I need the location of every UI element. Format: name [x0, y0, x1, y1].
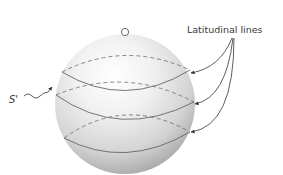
pole-marker-icon: [121, 28, 128, 35]
squiggle-arrow: [24, 87, 52, 98]
latitudinal-lines-label: Latitudinal lines: [187, 24, 263, 35]
surface-label: S': [9, 94, 18, 105]
sphere-latitude-diagram: Latitudinal lines S': [0, 0, 283, 175]
pointer-arrows: [191, 38, 234, 132]
sphere: [55, 34, 195, 174]
arrow-to-line-1: [191, 38, 232, 73]
arrow-to-line-3: [191, 38, 234, 132]
